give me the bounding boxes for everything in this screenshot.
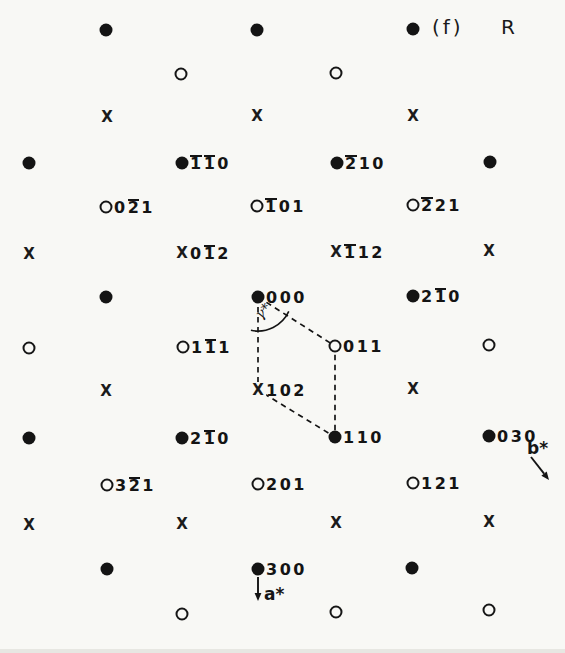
lattice-point-open <box>407 477 420 490</box>
lattice-point-filled <box>407 290 420 303</box>
lattice-point-open <box>329 340 342 353</box>
miller-index-label: 221 <box>421 197 462 215</box>
lattice-point-open <box>330 606 343 619</box>
lattice-point-filled <box>483 430 496 443</box>
lattice-point-filled <box>251 24 264 37</box>
lattice-point-open <box>483 604 496 617</box>
lattice-point-filled <box>176 432 189 445</box>
lattice-point-cross: X <box>249 108 265 124</box>
lattice-point-filled <box>23 432 36 445</box>
lattice-point-cross: X <box>405 108 421 124</box>
reciprocal-lattice-figure: XXX110210021101221XX012X112X000210111011… <box>0 0 565 653</box>
lattice-point-filled <box>406 562 419 575</box>
lattice-point-open <box>251 200 264 213</box>
lattice-point-filled <box>100 291 113 304</box>
lattice-point-filled <box>484 156 497 169</box>
miller-index-label: 201 <box>266 476 307 494</box>
miller-index-label: 210 <box>345 155 386 173</box>
miller-index-label: 210 <box>190 430 231 448</box>
lattice-point-filled <box>329 431 342 444</box>
lattice-point-cross: X <box>174 245 190 261</box>
scan-edge-artifact <box>0 649 565 653</box>
lattice-point-open <box>175 68 188 81</box>
lattice-point-cross: X <box>405 381 421 397</box>
lattice-point-open <box>23 342 36 355</box>
lattice-point-open <box>330 67 343 80</box>
lattice-type-label: R <box>501 15 515 39</box>
lattice-point-cross: X <box>328 244 344 260</box>
miller-index-label: 012 <box>190 245 231 263</box>
lattice-point-open <box>176 608 189 621</box>
lattice-point-open <box>100 201 113 214</box>
miller-index-label: 121 <box>421 475 462 493</box>
miller-index-label: 111 <box>191 339 232 357</box>
lattice-point-filled <box>100 24 113 37</box>
lattice-point-filled <box>176 157 189 170</box>
miller-index-label: 210 <box>421 288 462 306</box>
miller-index-label: 110 <box>343 429 384 447</box>
lattice-point-filled <box>101 563 114 576</box>
lattice-point-filled <box>331 157 344 170</box>
lattice-point-filled <box>252 563 265 576</box>
lattice-point-cross: X <box>98 383 114 399</box>
miller-index-label: 101 <box>265 198 306 216</box>
lattice-points-layer: XXX110210021101221XX012X112X000210111011… <box>0 0 565 653</box>
miller-index-label: 102 <box>266 382 307 400</box>
lattice-point-cross: X <box>174 516 190 532</box>
lattice-point-cross: X <box>481 243 497 259</box>
miller-index-label: 000 <box>266 289 307 307</box>
lattice-point-filled <box>23 157 36 170</box>
lattice-point-open <box>483 339 496 352</box>
miller-index-label: 300 <box>266 561 307 579</box>
miller-index-label: 112 <box>344 244 385 262</box>
lattice-point-cross: X <box>328 515 344 531</box>
lattice-point-open <box>407 199 420 212</box>
lattice-point-filled <box>407 23 420 36</box>
a-star-axis-label: a* <box>264 584 284 604</box>
lattice-point-cross: X <box>21 246 37 262</box>
miller-index-label: 110 <box>190 155 231 173</box>
lattice-point-cross: X <box>99 109 115 125</box>
miller-index-label: 321 <box>115 477 156 495</box>
miller-index-label: 011 <box>343 338 384 356</box>
lattice-point-cross: X <box>21 517 37 533</box>
lattice-point-open <box>177 341 190 354</box>
b-star-axis-label: b* <box>527 438 548 458</box>
lattice-point-open <box>252 478 265 491</box>
lattice-point-cross: X <box>481 514 497 530</box>
lattice-point-open <box>101 479 114 492</box>
lattice-point-cross: X <box>250 382 266 398</box>
miller-index-label: 021 <box>114 199 155 217</box>
panel-label: (f) <box>432 15 464 39</box>
